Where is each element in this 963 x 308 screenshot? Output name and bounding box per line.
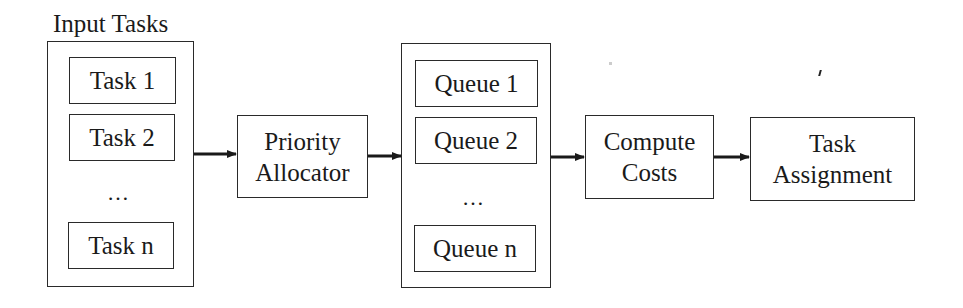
scan-speck bbox=[609, 62, 612, 65]
connector-arrows bbox=[0, 0, 963, 308]
